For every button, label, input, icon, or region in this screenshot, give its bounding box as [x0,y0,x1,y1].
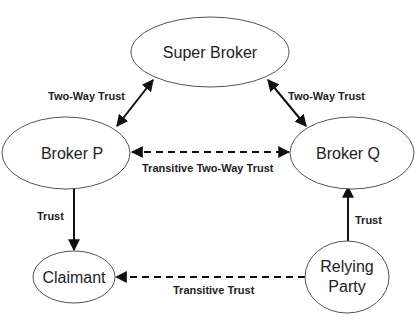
edge-broker-p-claimant: Trust [37,188,74,250]
edge-broker-p-broker-q: Transitive Two-Way Trust [132,152,289,174]
node-label: Broker Q [316,145,380,162]
trust-diagram: Two-Way Trust Two-Way Trust Transitive T… [0,0,420,320]
node-broker-p: Broker P [2,117,130,189]
edge-label: Two-Way Trust [288,90,365,102]
node-label-line1: Relying [320,258,373,275]
edge-label: Transitive Two-Way Trust [142,162,274,174]
node-label-line2: Party [328,278,365,295]
edge-label: Two-Way Trust [48,90,125,102]
node-claimant: Claimant [33,251,115,303]
node-label: Broker P [41,145,103,162]
node-super-broker: Super Broker [131,17,289,87]
edge-label: Trust [37,210,64,222]
edge-relying-party-broker-q: Trust [348,187,382,249]
node-relying-party: Relying Party [305,241,389,313]
node-broker-q: Broker Q [290,117,414,189]
edge-relying-party-claimant: Transitive Trust [116,277,305,296]
node-label: Claimant [42,269,106,286]
edge-label: Transitive Trust [173,284,255,296]
node-label: Super Broker [163,44,258,61]
edge-label: Trust [355,214,382,226]
